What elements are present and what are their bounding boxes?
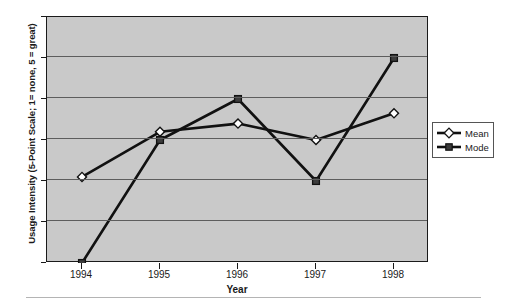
chart-legend: Mean Mode <box>432 122 494 158</box>
diamond-hollow-icon <box>436 127 462 139</box>
gridline-1 <box>47 220 427 221</box>
gridline-5 <box>47 56 427 57</box>
data-point-mean-1996 <box>233 119 242 128</box>
legend-item-mean: Mean <box>436 126 489 140</box>
footer-rule <box>26 297 481 298</box>
x-tick-label-1995: 1995 <box>129 269 189 280</box>
x-tick-label-1998: 1998 <box>363 269 423 280</box>
y-tick-mark <box>41 262 46 263</box>
chart-figure: Usage Intensity (5-Point Scale; 1= none,… <box>0 0 505 307</box>
data-point-mean-1997 <box>311 135 320 144</box>
data-point-mean-1998 <box>389 109 398 118</box>
plot-area <box>46 16 428 262</box>
x-axis-title: Year <box>46 284 428 295</box>
legend-label-mean: Mean <box>462 128 489 139</box>
y-axis-title: Usage Intensity (5-Point Scale; 1= none,… <box>26 9 37 259</box>
data-series-layer <box>47 17 429 263</box>
square-filled-icon <box>436 141 462 153</box>
gridline-4 <box>47 97 427 98</box>
data-point-mode-1994 <box>79 260 86 263</box>
series-line-mode <box>82 58 394 263</box>
x-tick-label-1996: 1996 <box>207 269 267 280</box>
gridline-2 <box>47 179 427 180</box>
legend-label-mode: Mode <box>462 142 489 153</box>
x-tick-label-1997: 1997 <box>285 269 345 280</box>
x-tick-label-1994: 1994 <box>51 269 111 280</box>
legend-item-mode: Mode <box>436 140 489 154</box>
gridline-3 <box>47 138 427 139</box>
